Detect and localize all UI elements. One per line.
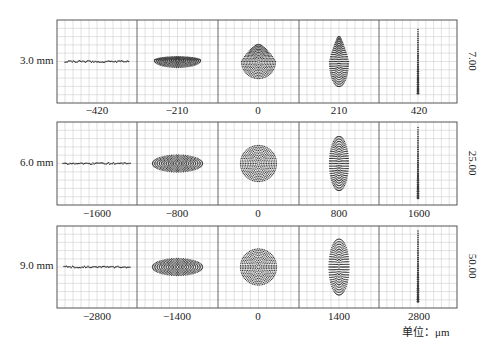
side-value-row2: 25.00 [467, 143, 479, 183]
unit-label: 单位：μm [402, 323, 449, 339]
spot-half-ellipse-h [154, 56, 201, 68]
tick-label: 0 [218, 207, 298, 219]
spot-line-h [62, 162, 131, 165]
side-value-row1: 7.00 [467, 41, 479, 81]
tick-label: 420 [379, 104, 459, 116]
tick-label: −2800 [57, 310, 137, 322]
tick-label: 2800 [379, 310, 459, 322]
tick-label: 1600 [379, 207, 459, 219]
tick-label: −210 [137, 104, 217, 116]
tick-label: −800 [137, 207, 217, 219]
row-label-6mm: 6.0 mm [20, 156, 54, 168]
row-label-3mm: 3.0 mm [20, 54, 54, 66]
tick-label: −420 [57, 104, 137, 116]
tick-label: −1400 [137, 310, 217, 322]
row-label-9mm: 9.0 mm [20, 259, 54, 271]
tick-label: 0 [218, 104, 298, 116]
tick-label: 210 [299, 104, 379, 116]
spot-diagram-grid [0, 0, 500, 354]
side-value-row3: 50.00 [467, 246, 479, 286]
spot-diagram-figure: 3.0 mm 6.0 mm 9.0 mm 7.00 25.00 50.00 −4… [0, 0, 500, 354]
tick-label: 0 [218, 310, 298, 322]
tick-label: 1400 [299, 310, 379, 322]
tick-label: 800 [299, 207, 379, 219]
tick-label: −1600 [57, 207, 137, 219]
